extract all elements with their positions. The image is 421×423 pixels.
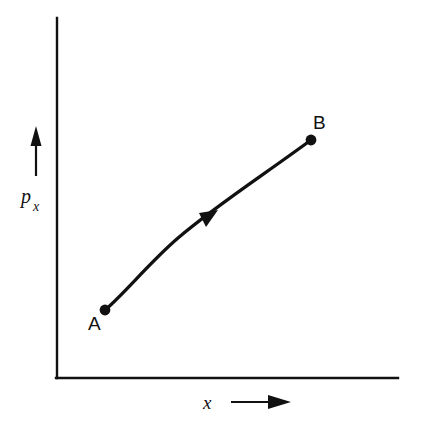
y-axis-label-subscript: x: [32, 199, 40, 214]
trajectory-curve: [105, 140, 311, 310]
phase-space-diagram: p x x A B: [0, 0, 421, 423]
y-axis-direction-arrow-icon: [31, 126, 42, 176]
point-a-label: A: [88, 313, 101, 334]
curve-direction-arrowhead-icon: [199, 210, 218, 227]
y-axis-label: p x: [19, 185, 40, 214]
y-axis-label-base: p: [19, 185, 31, 208]
x-axis-label: x: [202, 392, 212, 413]
figure-canvas: p x x A B: [0, 0, 421, 423]
point-a-dot: [100, 305, 111, 316]
point-b-dot: [306, 135, 317, 146]
point-b-label: B: [313, 112, 326, 133]
x-axis-direction-arrow-icon: [231, 395, 291, 409]
